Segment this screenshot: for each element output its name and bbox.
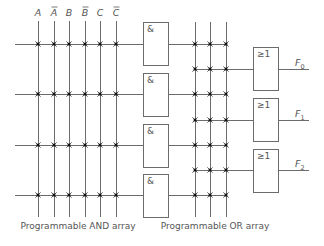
and-gate-symbol: & [147,24,154,34]
input-label-b-bar: B [82,7,89,18]
and-gate: & [143,174,168,217]
input-label-b: B [66,7,73,18]
output-label-f2: F2 [295,158,305,172]
or-gate-symbol: ≥1 [257,100,270,110]
or-gate-symbol: ≥1 [257,151,270,161]
and-gate: & [143,73,168,116]
and-gate-symbol: & [147,126,154,136]
or-array-caption: Programmable OR array [161,221,270,231]
output-label-f0: F0 [295,57,305,71]
and-gate: & [143,22,168,65]
input-label-c-bar: C [113,7,120,18]
or-gates: ≥1F0≥1F1≥1F2 [253,47,309,192]
and-gates: &&&& [143,22,168,217]
and-gate: & [143,124,168,167]
or-gate-symbol: ≥1 [257,49,270,59]
and-array-caption: Programmable AND array [20,221,136,231]
programmable-or-array [168,22,253,217]
output-label-f1: F1 [295,108,305,122]
or-gate: ≥1F0 [253,47,309,90]
input-label-c: C [97,7,104,18]
or-gate: ≥1F2 [253,149,309,192]
and-gate-symbol: & [147,75,154,85]
labels: Programmable AND array Programmable OR a… [20,221,270,231]
input-label-a: A [34,7,42,18]
pla-diagram: AABBCC &&&& ≥1F0≥1F1≥1F2 Programmable AN… [0,0,324,246]
or-gate: ≥1F1 [253,98,309,141]
input-label-a-bar: A [50,7,58,18]
and-gate-symbol: & [147,176,154,186]
programmable-and-array: AABBCC [15,7,143,217]
